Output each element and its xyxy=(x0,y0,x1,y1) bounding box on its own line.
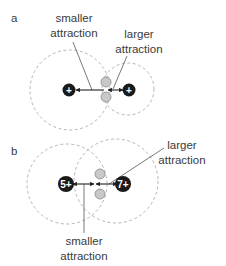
nucleus-left-charge: 5+ xyxy=(60,179,72,190)
larger-attraction-label-line2: attraction xyxy=(115,43,162,55)
electron-icon xyxy=(101,77,111,87)
panel-a-label: a xyxy=(11,12,18,24)
panel-b-label: b xyxy=(11,145,17,157)
larger-attraction-label-line2: attraction xyxy=(158,154,205,166)
bonding-diagram: a smaller attraction larger attraction +… xyxy=(0,0,226,266)
nucleus-right-charge: + xyxy=(126,85,132,96)
larger-attraction-label-line1: larger xyxy=(167,139,197,151)
smaller-attraction-label-line2: attraction xyxy=(50,27,97,39)
electron-icon xyxy=(101,92,111,102)
smaller-attraction-label-line1: smaller xyxy=(55,12,92,24)
electron-icon xyxy=(95,169,105,179)
larger-attraction-label-line1: larger xyxy=(124,28,154,40)
smaller-attraction-pointer xyxy=(73,42,92,90)
larger-attraction-pointer xyxy=(113,56,127,89)
smaller-attraction-label-line1: smaller xyxy=(65,235,102,247)
nucleus-left-charge: + xyxy=(66,85,72,96)
electron-icon xyxy=(95,189,105,199)
panel-a: a smaller attraction larger attraction +… xyxy=(11,12,163,130)
smaller-attraction-label-line2: attraction xyxy=(60,250,107,262)
panel-b: b larger attraction smaller attraction 5… xyxy=(11,139,206,262)
nucleus-right-charge: 7+ xyxy=(117,179,129,190)
